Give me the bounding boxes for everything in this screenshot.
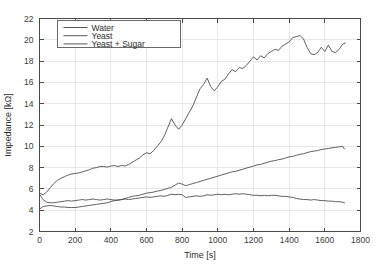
x-tick-label: 1200 [244, 235, 263, 245]
y-tick-label: 14 [24, 99, 34, 109]
x-tick-label: 0 [37, 235, 42, 245]
y-tick-label: 20 [24, 35, 34, 45]
y-tick-label: 12 [24, 120, 34, 130]
x-tick-label: 200 [68, 235, 82, 245]
x-tick-label: 600 [139, 235, 153, 245]
y-tick-label: 22 [24, 14, 34, 24]
legend-label-yeast-sugar: Yeast + Sugar [92, 39, 145, 49]
x-tick-label: 1400 [280, 235, 299, 245]
y-tick-label: 16 [24, 77, 34, 87]
x-tick-label: 1000 [208, 235, 227, 245]
y-tick-label: 4 [29, 205, 34, 215]
x-axis-title: Time [s] [184, 250, 216, 260]
x-tick-label: 400 [104, 235, 118, 245]
y-tick-label: 6 [29, 184, 34, 194]
chart-legend[interactable]: WaterYeastYeast + Sugar [58, 21, 181, 49]
y-axis-title: Impedance [kΩ] [3, 93, 13, 156]
y-tick-label: 18 [24, 56, 34, 66]
y-tick-label: 10 [24, 141, 34, 151]
chart-figure: 020040060080010001200140016001800 246810… [0, 0, 379, 264]
y-tick-label: 8 [29, 163, 34, 173]
x-tick-label: 1600 [315, 235, 334, 245]
x-tick-label: 800 [175, 235, 189, 245]
impedance-vs-time-line-chart: 020040060080010001200140016001800 246810… [0, 0, 379, 264]
x-tick-label: 1800 [351, 235, 370, 245]
y-tick-label: 2 [29, 227, 34, 237]
